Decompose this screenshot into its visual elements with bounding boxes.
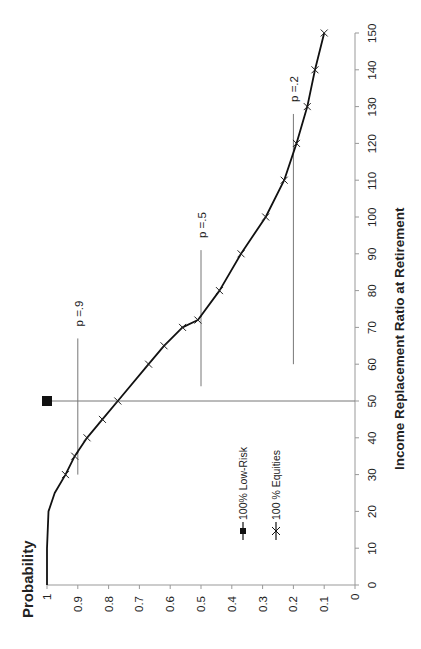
equities-curve (47, 33, 324, 585)
probability-tick-label: 0.4 (226, 595, 238, 612)
equities-x-marker (161, 342, 168, 349)
income-tick-label: 0 (366, 582, 378, 588)
probability-annotation-label: p =.9 (73, 301, 85, 327)
income-tick-label: 80 (366, 284, 378, 297)
data-series (42, 30, 328, 586)
equities-x-marker (194, 317, 201, 324)
x-axis-title: Income Replacement Ratio at Retirement (392, 207, 407, 470)
equities-x-marker (179, 324, 186, 331)
legend-low-risk-square-icon (240, 528, 246, 534)
income-tick-label: 70 (366, 321, 378, 334)
low-risk-square-marker (42, 396, 52, 406)
probability-tick-label: 0.6 (164, 596, 176, 612)
probability-tick-label: 0.9 (72, 596, 84, 612)
income-tick-label: 20 (366, 505, 378, 518)
income-tick-label: 120 (366, 134, 378, 153)
income-tick-label: 110 (366, 172, 378, 190)
y-axis-title: Probability (19, 540, 36, 618)
equities-x-marker (62, 471, 69, 478)
equities-x-marker (238, 250, 245, 257)
income-tick-label: 10 (366, 542, 378, 555)
equities-x-marker (84, 434, 91, 441)
probability-tick-label: 0.1 (318, 596, 330, 612)
income-tick-label: 90 (366, 248, 378, 261)
legend-equities-label: 100 % Equities (270, 450, 282, 520)
probability-tick-label: 0.3 (257, 596, 269, 612)
reference-lines: p =.9p =.5p =.2 (47, 76, 355, 475)
income-tick-label: 130 (366, 97, 378, 116)
probability-annotation-label: p =.2 (288, 76, 300, 102)
income-tick-label: 30 (366, 468, 378, 481)
equities-x-marker (99, 416, 106, 423)
probability-tick-label: 0.7 (133, 596, 145, 612)
probability-tick-label: 0.5 (195, 596, 207, 612)
equities-x-marker (71, 453, 78, 460)
chart-axes: 10.90.80.70.60.50.40.30.20.1001020304050… (41, 24, 378, 612)
equities-x-marker (262, 214, 269, 221)
equities-x-marker (145, 361, 152, 368)
probability-chart: 10.90.80.70.60.50.40.30.20.1001020304050… (0, 0, 421, 649)
income-tick-label: 50 (366, 395, 378, 408)
probability-tick-label: 1 (41, 594, 53, 600)
probability-tick-label: 0.8 (103, 596, 115, 612)
probability-annotation-label: p =.5 (196, 212, 208, 238)
income-tick-label: 140 (366, 61, 378, 80)
income-tick-label: 60 (366, 358, 378, 371)
income-tick-label: 40 (366, 432, 378, 445)
probability-tick-label: 0.2 (287, 596, 299, 612)
chart-legend: 100% Low-Risk100 % Equities (237, 446, 282, 540)
probability-tick-label: 0 (349, 594, 361, 600)
legend-low-risk-label: 100% Low-Risk (237, 446, 249, 520)
income-tick-label: 100 (366, 208, 378, 227)
income-tick-label: 150 (366, 24, 378, 43)
equities-x-marker (216, 287, 223, 294)
